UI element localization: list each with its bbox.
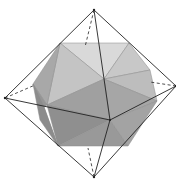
vertex-front	[109, 119, 111, 121]
icosahedron-octahedron-figure	[0, 0, 176, 191]
oct-edge-top-back	[85, 10, 94, 47]
polyhedra-diagram	[0, 0, 176, 191]
oct-edge-left-back	[5, 85, 35, 98]
vertex-bottom	[93, 176, 95, 178]
icosahedron	[33, 43, 157, 146]
vertex-top	[93, 9, 95, 11]
vertex-left	[4, 97, 6, 99]
